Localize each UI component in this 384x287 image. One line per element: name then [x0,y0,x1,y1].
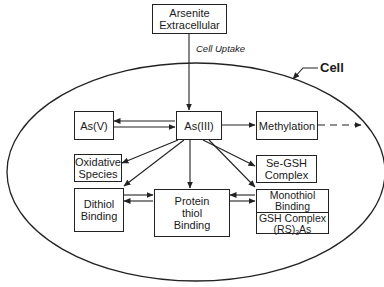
node-text: Complex [265,169,308,181]
node-oxidative-species: Oxidative Species [74,154,122,182]
node-text: Extracellular [159,19,220,31]
node-as5: As(V) [74,111,114,140]
node-text: Arsenite [169,7,209,19]
node-text: Species [78,168,117,180]
cell-pointer-arrow [293,68,318,79]
node-text: As(V) [80,120,108,132]
cell-membrane [7,63,384,281]
node-text: Protein [175,195,210,207]
node-text: Binding [275,201,310,212]
node-text: Binding [81,210,118,222]
node-monothiol-binding: Monothiol Binding [257,190,328,212]
edge-as3-to-monothiol [209,140,255,187]
node-text: Oxidative [75,156,121,168]
node-text: Dithiol [84,198,115,210]
node-se-gsh-complex: Se-GSH Complex [256,155,317,183]
node-text: thiol [182,207,202,219]
edge-as3-to-segsh [203,140,255,166]
node-protein-thiol-binding: Protein thiol Binding [154,189,230,237]
node-gsh-complex: GSH Complex (RS)3As [257,212,328,238]
node-dithiol-binding: Dithiol Binding [74,188,124,232]
node-text: Se-GSH [266,157,307,169]
diagram-wires [0,0,384,287]
node-as3: As(III) [176,111,222,140]
node-text: Binding [174,219,211,231]
node-text: As(III) [184,120,213,132]
edge-label-cell-uptake: Cell Uptake [196,43,245,54]
node-monothiol-gsh-group: Monothiol Binding GSH Complex (RS)3As [256,189,329,234]
node-text: Methylation [259,120,315,132]
formula-part: As [299,223,311,235]
edge-as3-to-dithiol [124,140,184,186]
cell-label: Cell [320,60,344,75]
formula-part: (RS) [274,223,296,235]
node-formula: (RS)3As [274,224,312,238]
node-arsenite-extracellular: Arsenite Extracellular [152,4,227,34]
node-methylation: Methylation [256,111,318,140]
